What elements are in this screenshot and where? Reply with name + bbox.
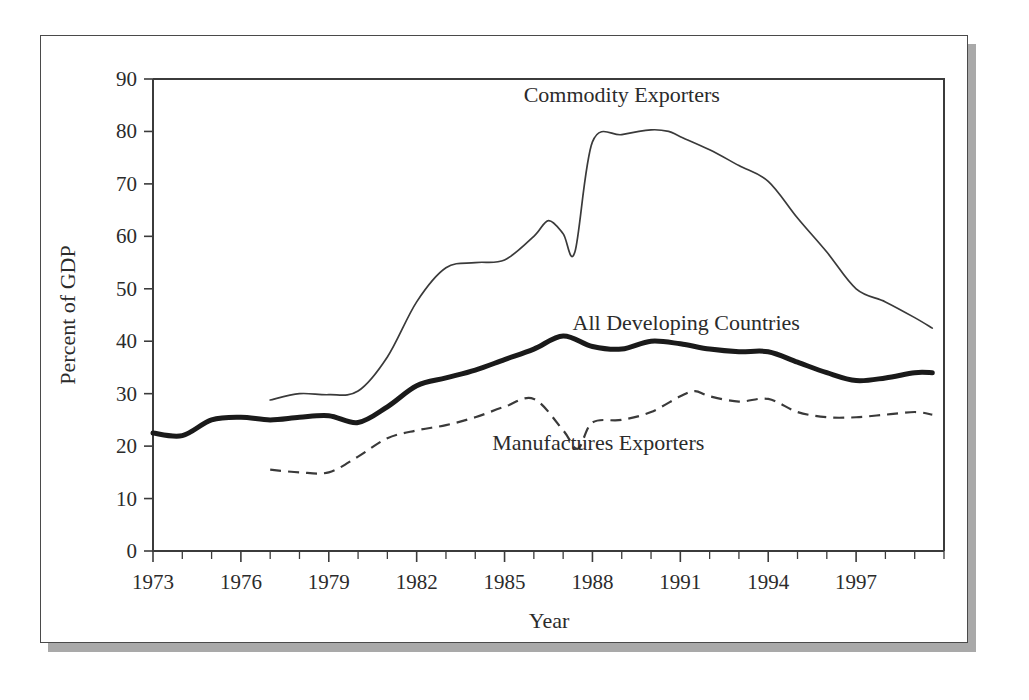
axes-group xyxy=(153,79,944,551)
y-tick-label: 30 xyxy=(116,382,137,406)
y-axis-tick-labels: 0102030405060708090 xyxy=(116,67,137,563)
x-tick-label: 1988 xyxy=(571,570,613,594)
line-chart-svg: 0102030405060708090 19731976197919821985… xyxy=(41,36,969,644)
x-tick-label: 1976 xyxy=(220,570,262,594)
series-line-all-developing-countries xyxy=(153,336,932,436)
page-root: 0102030405060708090 19731976197919821985… xyxy=(0,0,1029,700)
x-tick-label: 1994 xyxy=(747,570,790,594)
y-tick-label: 0 xyxy=(127,539,138,563)
y-tick-label: 90 xyxy=(116,67,137,91)
series-label-commodity-exporters: Commodity Exporters xyxy=(524,82,720,107)
y-tick-label: 60 xyxy=(116,224,137,248)
plot-frame-edges xyxy=(153,79,944,551)
y-tick-label: 70 xyxy=(116,172,137,196)
chart-plot-area: 0102030405060708090 19731976197919821985… xyxy=(41,36,969,644)
x-axis-major-ticks xyxy=(153,551,856,562)
x-axis-tick-labels: 197319761979198219851988199119941997 xyxy=(132,570,877,594)
y-axis-title: Percent of GDP xyxy=(55,245,80,384)
y-tick-label: 20 xyxy=(116,434,137,458)
figure-frame: 0102030405060708090 19731976197919821985… xyxy=(40,35,968,643)
axis-lines xyxy=(153,79,944,551)
x-tick-label: 1979 xyxy=(308,570,350,594)
y-tick-label: 80 xyxy=(116,119,137,143)
x-tick-label: 1985 xyxy=(484,570,526,594)
y-tick-label: 10 xyxy=(116,487,137,511)
x-axis-title: Year xyxy=(529,608,570,633)
x-tick-label: 1973 xyxy=(132,570,174,594)
series-label-manufactures-exporters: Manufactures Exporters xyxy=(492,430,704,455)
series-label-all-developing-countries: All Developing Countries xyxy=(573,310,800,335)
x-tick-label: 1997 xyxy=(835,570,877,594)
y-tick-label: 40 xyxy=(116,329,137,353)
y-axis-ticks xyxy=(144,79,153,551)
series-line-commodity-exporters xyxy=(270,130,932,400)
y-tick-label: 50 xyxy=(116,277,137,301)
x-axis-minor-ticks xyxy=(182,551,944,559)
x-tick-label: 1982 xyxy=(396,570,438,594)
data-series-group xyxy=(153,130,932,474)
x-tick-label: 1991 xyxy=(659,570,701,594)
